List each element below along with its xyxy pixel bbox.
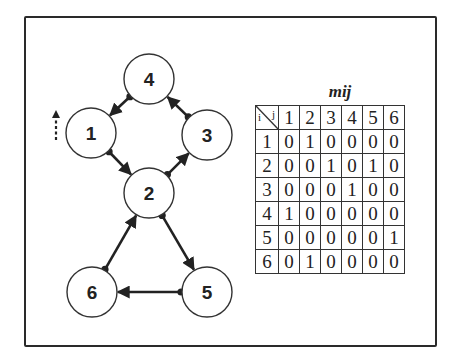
matrix-cell: 0: [363, 130, 384, 154]
edge-6-to-2: [101, 216, 136, 274]
matrix-title-symbol: m: [329, 82, 342, 101]
matrix-cell: 0: [321, 250, 342, 274]
edge-line: [167, 153, 189, 175]
matrix-cell: 0: [363, 250, 384, 274]
edge-2-to-5: [159, 212, 194, 270]
matrix-column-header: 4: [342, 106, 363, 130]
edge-line: [104, 216, 136, 271]
corner-row-label: i: [258, 106, 261, 129]
matrix-row: 3000100: [256, 178, 405, 202]
adjacency-matrix: ij12345610100002001010300010041000005000…: [255, 105, 405, 274]
edge-2-to-3: [164, 153, 189, 178]
matrix-row-header: 1: [256, 130, 279, 154]
matrix-cell: 1: [384, 226, 405, 250]
edge-3-to-4: [168, 97, 192, 120]
nodes-layer: 123456: [66, 54, 232, 317]
matrix-corner-cell: ij: [256, 106, 279, 130]
edge-line: [108, 151, 131, 174]
matrix-cell: 0: [384, 250, 405, 274]
edge-line: [162, 215, 194, 270]
matrix-cell: 0: [279, 250, 300, 274]
node-5: 5: [182, 267, 232, 317]
matrix-cell: 0: [279, 226, 300, 250]
matrix-cell: 0: [342, 202, 363, 226]
matrix-row: 5000001: [256, 226, 405, 250]
matrix-row: 1010000: [256, 130, 405, 154]
matrix-cell: 0: [300, 226, 321, 250]
matrix-column-header: 2: [300, 106, 321, 130]
matrix-cell: 0: [300, 154, 321, 178]
matrix-cell: 0: [279, 178, 300, 202]
matrix-cell: 0: [342, 154, 363, 178]
matrix-cell: 0: [300, 202, 321, 226]
matrix-cell: 0: [300, 178, 321, 202]
matrix-cell: 0: [342, 130, 363, 154]
node-2: 2: [124, 168, 174, 218]
matrix-cell: 0: [384, 130, 405, 154]
node-label: 5: [202, 282, 213, 303]
matrix-cell: 0: [321, 130, 342, 154]
matrix-column-header: 5: [363, 106, 384, 130]
dashed-up-arrow-icon: [52, 110, 60, 140]
node-4: 4: [124, 54, 174, 104]
edge-1-to-2: [105, 148, 130, 174]
matrix-cell: 0: [321, 178, 342, 202]
matrix-cell: 1: [300, 130, 321, 154]
matrix-column-header: 1: [279, 106, 300, 130]
node-6: 6: [67, 267, 117, 317]
matrix-cell: 1: [300, 250, 321, 274]
matrix-cell: 0: [321, 226, 342, 250]
matrix-row-header: 5: [256, 226, 279, 250]
matrix-title-subscript: ij: [342, 82, 351, 101]
edge-5-to-6: [118, 288, 185, 295]
node-label: 2: [144, 183, 155, 204]
matrix-cell: 1: [342, 178, 363, 202]
matrix-cell: 1: [321, 154, 342, 178]
matrix-cell: 0: [384, 178, 405, 202]
matrix-cell: 0: [384, 154, 405, 178]
matrix-cell: 0: [279, 154, 300, 178]
matrix-row-header: 3: [256, 178, 279, 202]
matrix-cell: 0: [363, 202, 384, 226]
matrix-column-header: 6: [384, 106, 405, 130]
matrix-row-header: 2: [256, 154, 279, 178]
node-label: 6: [87, 282, 98, 303]
matrix-cell: 0: [342, 226, 363, 250]
edge-4-to-1: [110, 93, 134, 115]
matrix-row-header: 4: [256, 202, 279, 226]
corner-col-label: j: [272, 103, 275, 126]
matrix-row-header: 6: [256, 250, 279, 274]
matrix-cell: 1: [279, 202, 300, 226]
matrix-column-header: 3: [321, 106, 342, 130]
matrix-cell: 1: [363, 154, 384, 178]
node-label: 4: [144, 69, 155, 90]
node-1: 1: [66, 108, 116, 158]
node-label: 1: [86, 123, 97, 144]
matrix-header-row: ij123456: [256, 106, 405, 130]
matrix-cell: 0: [342, 250, 363, 274]
node-3: 3: [182, 110, 232, 160]
matrix-row: 6010000: [256, 250, 405, 274]
matrix-row: 4100000: [256, 202, 405, 226]
matrix-title: mij: [300, 82, 380, 102]
matrix-row: 2001010: [256, 154, 405, 178]
node-label: 3: [202, 125, 213, 146]
matrix-cell: 0: [321, 202, 342, 226]
matrix-cell: 0: [279, 130, 300, 154]
matrix-cell: 0: [363, 226, 384, 250]
matrix-cell: 0: [363, 178, 384, 202]
matrix-cell: 0: [384, 202, 405, 226]
